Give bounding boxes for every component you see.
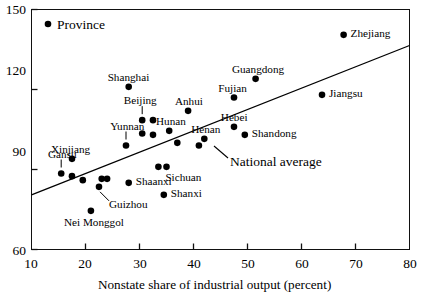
data-point (185, 108, 192, 115)
data-point-label: Shandong (252, 127, 297, 139)
data-point (242, 132, 249, 139)
x-tick-label-30: 30 (125, 256, 155, 272)
national-average-leader-line (214, 146, 228, 158)
y-tick-label-150: 150 (0, 2, 26, 18)
data-point (340, 32, 347, 39)
data-point-label: Anhui (175, 95, 203, 107)
data-point (231, 124, 238, 131)
data-point-label: Fujian (218, 82, 247, 94)
data-point-label: Shanxi (171, 187, 202, 199)
data-point-label: Hunan (156, 115, 186, 127)
legend-marker-province (45, 21, 52, 28)
x-axis-ticks (86, 244, 356, 250)
data-point (174, 140, 181, 147)
data-point-label: Zhejiang (351, 27, 391, 39)
data-point-label: Jiangsu (329, 87, 363, 99)
national-average-label: National average (230, 154, 322, 170)
data-point (155, 164, 162, 171)
data-point-label: Gansu (48, 148, 77, 160)
data-point (201, 136, 208, 143)
x-tick-label-10: 10 (16, 256, 46, 272)
x-tick-label-70: 70 (341, 256, 371, 272)
data-point (88, 208, 95, 215)
data-point-label: Hebei (221, 111, 248, 123)
x-tick-label-80: 80 (395, 256, 424, 272)
y-axis-ticks (32, 10, 38, 250)
legend-label-province: Province (57, 17, 105, 33)
x-axis-title: Nonstate share of industrial output (per… (98, 277, 331, 293)
data-point-label: Beijing (124, 94, 157, 106)
y-tick-label-120: 120 (0, 63, 26, 79)
data-point (319, 92, 326, 99)
data-point-label: Yunnan (110, 120, 144, 132)
data-point (125, 84, 132, 91)
x-tick-label-40: 40 (179, 256, 209, 272)
data-point (231, 94, 238, 101)
y-tick-label-90: 90 (0, 144, 26, 160)
data-point (166, 128, 173, 135)
data-point-label: Shanghai (108, 71, 150, 83)
data-point (163, 164, 170, 171)
data-point-label: Guizhou (109, 198, 148, 210)
data-point-label: Henan (191, 123, 220, 135)
x-tick-label-50: 50 (233, 256, 263, 272)
data-point (69, 173, 76, 180)
data-point (161, 192, 168, 199)
data-point-label: Nei Monggol (64, 216, 124, 228)
data-point (58, 170, 65, 177)
data-point-label: Shaanxi (136, 175, 172, 187)
x-tick-label-60: 60 (287, 256, 317, 272)
data-point (196, 142, 203, 149)
data-point (123, 142, 130, 149)
data-point (96, 184, 103, 191)
x-tick-label-20: 20 (70, 256, 100, 272)
data-point-label: Guangdong (232, 63, 284, 75)
data-point (125, 180, 132, 187)
data-point (104, 176, 111, 183)
data-point (252, 76, 259, 83)
data-point (80, 177, 87, 184)
chart-container: 150 120 90 60 10 20 30 40 50 60 70 80 Pr… (0, 0, 424, 298)
data-point (150, 132, 157, 139)
